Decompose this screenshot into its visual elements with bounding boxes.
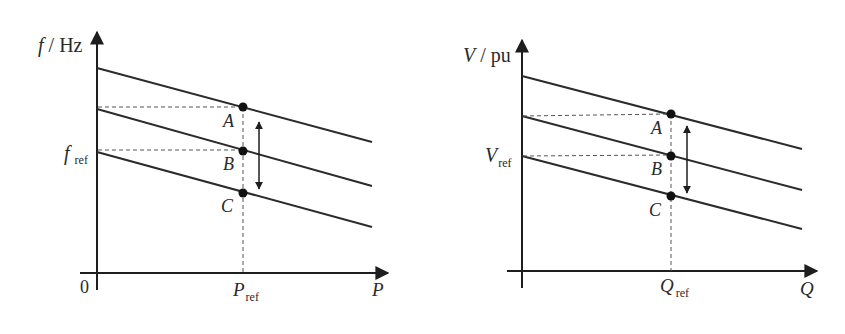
droop-line-lower	[522, 156, 802, 229]
point-c	[239, 189, 248, 198]
point-b	[667, 152, 676, 161]
label-b: B	[223, 154, 234, 174]
droop-line-lower	[97, 152, 372, 227]
droop-line-upper	[522, 76, 802, 149]
point-a	[667, 110, 676, 119]
droop-line-middle	[522, 116, 802, 190]
x-axis-label: P	[371, 279, 384, 300]
x-axis-label: Q	[800, 278, 814, 299]
label-a: A	[222, 111, 235, 131]
label-b: B	[651, 159, 662, 179]
point-b	[239, 147, 248, 156]
guide-a-horizontal	[523, 114, 670, 116]
guide-b-horizontal	[523, 155, 670, 156]
p-ref-label: Pref	[232, 279, 259, 304]
left-panel-fp: f / Hz fref A B C 0 Pref P	[38, 32, 388, 304]
point-a	[239, 103, 248, 112]
droop-line-upper	[97, 68, 372, 142]
q-ref-label: Qref	[660, 275, 689, 300]
y-axis-label: V / pu	[463, 44, 511, 67]
label-c: C	[221, 196, 234, 216]
point-c	[667, 192, 676, 201]
droop-line-middle	[97, 109, 372, 186]
droop-diagram: f / Hz fref A B C 0 Pref P V / pu Vref A…	[0, 0, 845, 334]
f-ref-label: fref	[64, 142, 88, 167]
y-axis-label: f / Hz	[38, 34, 83, 57]
origin-label: 0	[80, 277, 89, 297]
label-c: C	[649, 200, 662, 220]
v-ref-label: Vref	[485, 144, 512, 170]
label-a: A	[650, 118, 663, 138]
right-panel-vq: V / pu Vref A B C Qref Q	[463, 40, 817, 300]
